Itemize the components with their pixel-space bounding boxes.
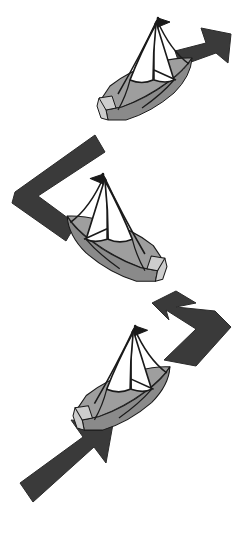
boat-top [97, 18, 192, 120]
arrow-lower-bend [152, 291, 231, 366]
diagram-svg [0, 0, 249, 536]
boat-bottom [73, 326, 170, 430]
tacking-diagram-canvas [0, 0, 249, 536]
arrow-bottom-left [20, 420, 113, 502]
boat-middle [67, 174, 167, 281]
